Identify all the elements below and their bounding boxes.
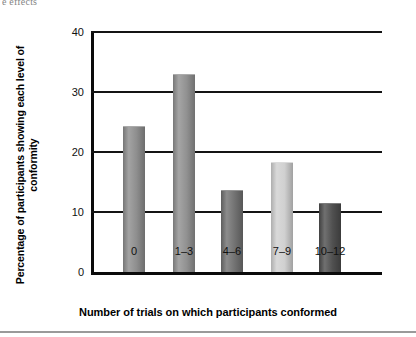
plot-area: 010203040	[91, 32, 382, 272]
gridline	[91, 31, 382, 33]
y-tick-label: 20	[72, 146, 84, 158]
x-tick-label: 7–9	[273, 245, 291, 257]
bar	[173, 74, 195, 272]
x-tick-label: 4–6	[223, 245, 241, 257]
y-tick-label: 0	[78, 266, 84, 278]
x-tick-label: 1–3	[175, 245, 193, 257]
y-tick-label: 10	[72, 206, 84, 218]
y-axis-title: Percentage of participants showing each …	[14, 35, 40, 295]
gridline	[91, 91, 382, 93]
x-tick-label: 0	[131, 245, 137, 257]
y-tick-label: 30	[72, 86, 84, 98]
y-tick-label: 40	[72, 26, 84, 38]
x-axis-title: Number of trials on which participants c…	[0, 306, 416, 318]
x-tick-label: 10–12	[315, 245, 346, 257]
bar	[221, 190, 243, 272]
bar-chart-figure: Percentage of participants showing each …	[0, 0, 416, 337]
x-axis-line	[91, 272, 382, 275]
bar	[319, 203, 341, 272]
bottom-divider	[0, 331, 416, 333]
